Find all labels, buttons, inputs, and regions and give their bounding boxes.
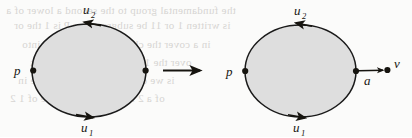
left-loop-ellipse	[32, 24, 146, 117]
right-top-edge-label: u 2	[294, 3, 307, 21]
pendant-edge-a	[358, 70, 383, 71]
right-loop-ellipse	[245, 25, 356, 117]
left-top-edge-label: u 2	[83, 2, 96, 20]
left-basepoint-label: p	[13, 63, 21, 78]
left-bottom-edge-label-subscript: 1	[89, 128, 93, 138]
left-bottom-edge-label-base: u	[81, 120, 88, 135]
figure-container: the fundamental group to the second a lo…	[0, 0, 412, 137]
left-top-edge-label-base: u	[83, 2, 90, 17]
right-bottom-edge-label-base: u	[293, 120, 300, 135]
right-loop-diagram: p a v u 2 u 1	[225, 3, 400, 137]
left-loop-diagram: p u 2 u 1	[13, 2, 149, 137]
right-basepoint-dot	[242, 68, 248, 74]
right-top-edge-label-subscript: 2	[302, 11, 307, 21]
diagram-svg: p u 2 u 1	[0, 0, 412, 137]
left-basepoint-dot	[30, 67, 36, 73]
right-bottom-edge-label-subscript: 1	[301, 128, 305, 138]
right-bottom-edge-label: u 1	[293, 120, 305, 137]
left-bottom-edge-label: u 1	[81, 120, 93, 137]
left-right-vertex-dot	[143, 67, 149, 73]
pendant-vertex-dot	[384, 67, 390, 73]
left-top-edge-label-subscript: 2	[91, 10, 96, 20]
pendant-vertex-label: v	[394, 56, 400, 71]
right-basepoint-label: p	[225, 64, 233, 79]
right-top-edge-label-base: u	[294, 3, 301, 18]
pendant-edge-label: a	[364, 73, 371, 88]
